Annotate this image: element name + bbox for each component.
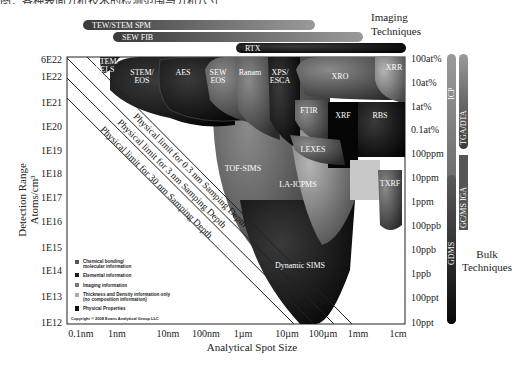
- label-stem-eos-2: EOS: [134, 76, 149, 85]
- bulk-techniques-label-2: Techniques: [462, 261, 512, 273]
- label-la-icpms: LA-ICPMS: [279, 180, 316, 189]
- label-gdms: GDMS: [447, 242, 456, 265]
- label-ftir: FTIR: [300, 106, 318, 115]
- ytick-right: 100ppm: [411, 148, 444, 159]
- ytick-right: 10ppm: [411, 172, 439, 183]
- ytick-left: 1E18: [41, 168, 62, 179]
- xtick: 100µm: [309, 328, 338, 339]
- legend-swatch-thickness: [75, 293, 79, 297]
- ytick-left: 1E20: [41, 121, 62, 132]
- label-sew-fib: SEW FIB: [122, 33, 153, 42]
- xtick: 10µm: [275, 328, 299, 339]
- ytick-left: 1E16: [41, 216, 62, 227]
- label-xrf: XRF: [335, 111, 351, 120]
- legend-swatch-imaging: [75, 283, 79, 287]
- y-axis-left: 6E22 1E22 1E21 1E20 1E19 1E18 1E17 1E16 …: [41, 54, 62, 328]
- ytick-left: 1E19: [41, 145, 62, 156]
- label-tew-stem-spm: TEW/STEM SPM: [92, 21, 151, 30]
- ytick-left: 1E17: [41, 192, 62, 203]
- label-tga-dta: TGA/DTA: [459, 110, 468, 145]
- label-icp: ICP: [447, 87, 456, 100]
- label-ranam: Ranam: [239, 68, 262, 77]
- xtick: 1cm: [389, 328, 406, 339]
- legend-physical: Physical Properties: [83, 306, 126, 311]
- imaging-techniques: TEW/STEM SPM SEW FIB RTX: [83, 20, 406, 53]
- label-sew-eos-2: EOS: [210, 76, 225, 85]
- xtick: 1nm: [108, 328, 126, 339]
- label-dynamic-sims: Dynamic SIMS: [275, 261, 325, 270]
- label-txrf: TXRF: [380, 179, 401, 188]
- legend-swatch-elemental: [75, 273, 79, 277]
- y-axis-label-1: Detection Range: [16, 163, 28, 237]
- y-axis-right: 100at% 10at% 1at% 0.1at% 100ppm 10ppm 1p…: [411, 53, 444, 328]
- bulk-techniques: ICP GDMS TGA/DTA GC/MS IGA: [447, 54, 468, 324]
- xtick: 1mm: [348, 328, 369, 339]
- ytick-left: 1E12: [41, 317, 62, 328]
- chart-figure: TEW/STEM SPM SEW FIB RTX Imaging Techniq…: [0, 0, 521, 366]
- legend-elemental: Elemental information: [83, 273, 131, 278]
- ytick-left: 1E13: [41, 291, 62, 302]
- label-lexes: LEXES: [301, 145, 326, 154]
- label-xrr: XRR: [386, 63, 403, 72]
- legend-swatch-chemical: [75, 260, 79, 264]
- ytick-left: 1E22: [41, 71, 62, 82]
- label-rtx: RTX: [245, 44, 261, 53]
- xtick: 100nm: [192, 328, 220, 339]
- ytick-left: 1E14: [41, 265, 62, 276]
- ytick-left: 6E22: [41, 54, 62, 65]
- legend-swatch-physical: [75, 306, 79, 311]
- imaging-techniques-label-1: Imaging: [371, 11, 408, 23]
- ytick-right: 100ppb: [411, 220, 441, 231]
- label-aes: AES: [175, 68, 190, 77]
- y-axis-label-2: Atoms/cm³: [28, 175, 40, 225]
- ytick-left: 1E15: [41, 242, 62, 253]
- imaging-techniques-label-2: Techniques: [371, 25, 421, 37]
- label-xro: XRO: [332, 72, 349, 81]
- ytick-right: 0.1at%: [411, 124, 439, 135]
- ytick-right: 1ppb: [411, 268, 431, 279]
- ytick-right: 10at%: [411, 77, 437, 88]
- legend-thickness-line2: (no composition information): [83, 297, 147, 302]
- ytick-right: 1ppm: [411, 196, 434, 207]
- bulk-techniques-label-1: Bulk: [476, 248, 498, 260]
- label-tof-sims: TOF-SIMS: [225, 164, 261, 173]
- bar-rtx: [236, 43, 406, 53]
- ytick-right: 10ppt: [411, 317, 434, 328]
- ytick-right: 10ppb: [411, 244, 436, 255]
- label-stem-eels-2: EELS: [95, 65, 114, 74]
- xtick: 0.1nm: [68, 328, 94, 339]
- x-axis-label: Analytical Spot Size: [207, 341, 298, 353]
- ytick-left: 1E21: [41, 97, 62, 108]
- xtick: 1µm: [234, 328, 253, 339]
- legend-chemical-line2: molecular information: [83, 264, 131, 269]
- copyright: Copyright © 2008 Evans Analytical Group …: [71, 316, 159, 321]
- label-gcms-iga: GC/MS IGA: [459, 187, 468, 228]
- ytick-right: 100at%: [411, 53, 442, 64]
- legend-imaging: Imaging information: [83, 283, 127, 288]
- label-esca: ESCA: [270, 76, 291, 85]
- label-rbs: RBS: [372, 111, 387, 120]
- ytick-right: 1at%: [411, 101, 432, 112]
- x-axis: 0.1nm 1nm 10nm 100nm 1µm 10µm 100µm 1mm …: [68, 328, 406, 339]
- region-light-patch: [350, 160, 380, 200]
- xtick: 10nm: [157, 328, 180, 339]
- ytick-right: 100ppt: [411, 292, 439, 303]
